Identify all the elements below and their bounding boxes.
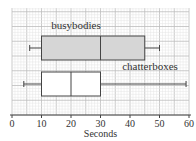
box-iqr [42, 36, 145, 60]
x-tick-label: 40 [125, 118, 135, 129]
x-tick-label: 0 [10, 118, 15, 129]
boxplot-chart: 0102030405060 busybodieschatterboxes Sec… [0, 0, 196, 141]
box-busybodies: busybodies [30, 19, 160, 60]
x-tick-label: 20 [66, 118, 76, 129]
x-ticks: 0102030405060 [10, 115, 195, 129]
box-chatterboxes: chatterboxes [24, 60, 186, 96]
x-tick-label: 60 [184, 118, 194, 129]
x-tick-label: 50 [155, 118, 165, 129]
x-axis-label: Seconds [84, 128, 117, 139]
x-tick-label: 10 [37, 118, 47, 129]
series-label: busybodies [51, 19, 101, 31]
series-label: chatterboxes [122, 60, 178, 72]
boxes: busybodieschatterboxes [24, 19, 186, 96]
